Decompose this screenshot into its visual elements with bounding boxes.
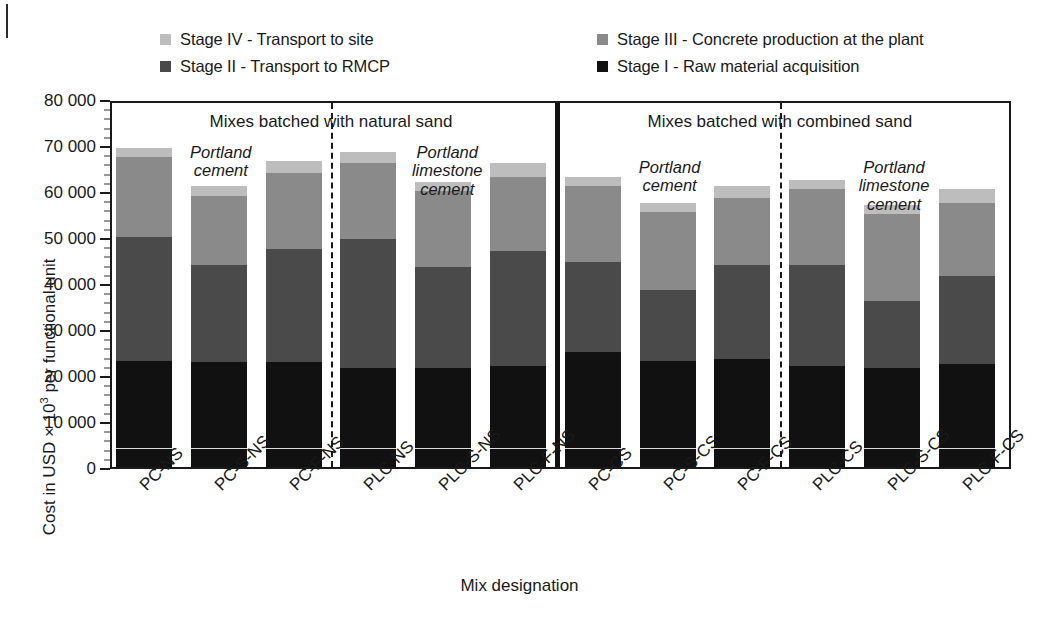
bar-segment-stage-4 — [191, 186, 247, 195]
y-tick-label-80000: 80 000 — [44, 91, 96, 111]
y-tick-label-10000: 10 000 — [44, 413, 96, 433]
y-tick-major — [100, 238, 110, 240]
bar-segment-stage-3 — [640, 212, 696, 290]
bar-segment-stage-2 — [116, 237, 172, 361]
bar-segment-stage-2 — [340, 239, 396, 368]
bar-segment-stage-1 — [116, 361, 172, 467]
y-tick-major — [100, 100, 110, 102]
group-note-line: limestone — [412, 161, 483, 179]
group-note-0: Portlandcement — [190, 143, 251, 180]
bar-segment-stage-2 — [640, 290, 696, 361]
bar-PC-S-CS — [640, 203, 696, 467]
bar-segment-stage-2 — [565, 262, 621, 352]
bar-segment-stage-2 — [266, 249, 322, 363]
legend-label: Stage IV - Transport to site — [180, 30, 373, 49]
bar-segment-stage-1 — [565, 352, 621, 467]
bar-segment-stage-4 — [340, 152, 396, 164]
bar-segment-stage-3 — [191, 196, 247, 265]
group-note-1: Portlandlimestonecement — [412, 143, 483, 198]
page-edge-mark — [6, 4, 8, 38]
group-note-line: cement — [412, 180, 483, 198]
y-tick-label-30000: 30 000 — [44, 321, 96, 341]
bar-PLC-S-CS — [864, 205, 920, 467]
y-tick-major — [100, 192, 110, 194]
legend-swatch-icon — [160, 34, 171, 45]
bar-hairline — [714, 448, 770, 449]
bar-segment-stage-1 — [939, 364, 995, 468]
y-tick-label-40000: 40 000 — [44, 275, 96, 295]
legend-label: Stage I - Raw material acquisition — [617, 57, 859, 76]
bar-segment-stage-2 — [191, 265, 247, 363]
bar-segment-stage-4 — [490, 163, 546, 177]
bar-hairline — [565, 448, 621, 449]
y-tick-label-70000: 70 000 — [44, 137, 96, 157]
bar-segment-stage-1 — [640, 361, 696, 467]
legend-item-0: Stage IV - Transport to site — [160, 30, 373, 49]
bar-hairline — [415, 448, 471, 449]
bar-segment-stage-3 — [864, 214, 920, 301]
bar-PC-S-NS — [191, 186, 247, 467]
bar-segment-stage-2 — [714, 265, 770, 359]
bar-segment-stage-4 — [789, 180, 845, 189]
bar-segment-stage-3 — [789, 189, 845, 265]
bar-PC-F-NS — [266, 161, 322, 467]
bar-segment-stage-4 — [714, 186, 770, 198]
group-note-line: Portland — [190, 143, 251, 161]
group-divider — [555, 103, 560, 467]
bar-hairline — [191, 448, 247, 449]
bar-PLC-F-CS — [939, 189, 995, 467]
group-divider — [331, 103, 333, 467]
group-note-line: Portland — [412, 143, 483, 161]
bar-PLC-F-NS — [490, 163, 546, 467]
legend-swatch-icon — [597, 61, 608, 72]
group-note-line: cement — [859, 195, 930, 213]
bar-segment-stage-3 — [340, 163, 396, 239]
bar-segment-stage-4 — [565, 177, 621, 186]
y-tick-major — [100, 468, 110, 470]
group-divider — [780, 103, 782, 467]
y-tick-major — [100, 284, 110, 286]
bar-segment-stage-2 — [415, 267, 471, 368]
y-tick-label-50000: 50 000 — [44, 229, 96, 249]
bar-segment-stage-2 — [490, 251, 546, 366]
y-tick-major — [100, 422, 110, 424]
bar-segment-stage-3 — [415, 191, 471, 267]
legend-item-2: Stage II - Transport to RMCP — [160, 57, 390, 76]
legend-swatch-icon — [597, 34, 608, 45]
group-note-3: Portlandlimestonecement — [859, 158, 930, 213]
group-note-line: Portland — [639, 158, 700, 176]
group-note-2: Portlandcement — [639, 158, 700, 195]
group-note-line: Portland — [859, 158, 930, 176]
bar-hairline — [939, 448, 995, 449]
panel-title-0: Mixes batched with natural sand — [210, 112, 453, 132]
bar-hairline — [490, 448, 546, 449]
bar-hairline — [116, 448, 172, 449]
bar-segment-stage-3 — [714, 198, 770, 265]
bar-PLC-S-NS — [415, 182, 471, 467]
bar-PLC-CS — [789, 180, 845, 467]
bar-segment-stage-2 — [789, 265, 845, 366]
x-axis-title: Mix designation — [0, 576, 1039, 596]
legend-label: Stage II - Transport to RMCP — [180, 57, 390, 76]
bar-segment-stage-3 — [266, 173, 322, 249]
bar-PLC-NS — [340, 152, 396, 467]
bar-segment-stage-4 — [266, 161, 322, 173]
bar-segment-stage-4 — [116, 148, 172, 157]
bar-segment-stage-3 — [490, 177, 546, 251]
legend-item-3: Stage I - Raw material acquisition — [597, 57, 859, 76]
bar-hairline — [864, 448, 920, 449]
chart-legend: Stage IV - Transport to siteStage III - … — [160, 30, 1020, 86]
legend-swatch-icon — [160, 61, 171, 72]
legend-item-1: Stage III - Concrete production at the p… — [597, 30, 924, 49]
bar-segment-stage-1 — [191, 362, 247, 467]
y-tick-major — [100, 376, 110, 378]
bar-segment-stage-1 — [266, 362, 322, 467]
bar-hairline — [266, 448, 322, 449]
bar-segment-stage-2 — [939, 276, 995, 363]
bar-segment-stage-1 — [714, 359, 770, 467]
y-tick-label-20000: 20 000 — [44, 367, 96, 387]
bar-PC-NS — [116, 148, 172, 467]
y-axis: Cost in USD × 103 per functional unit 01… — [0, 101, 110, 469]
panel-title-1: Mixes batched with combined sand — [648, 112, 913, 132]
y-tick-label-60000: 60 000 — [44, 183, 96, 203]
